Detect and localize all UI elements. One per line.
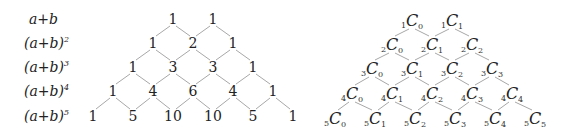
pascal-number: 4 — [229, 83, 238, 99]
edge-line — [216, 50, 230, 60]
combination-r: 2 — [478, 46, 483, 55]
combination-term: 4C1 — [381, 84, 403, 104]
combination-term: 5C1 — [364, 109, 386, 129]
exponent: 2 — [63, 35, 69, 44]
pascal-number: 1 — [249, 59, 258, 75]
combination-symbol: C — [529, 109, 541, 128]
pascal-number: 4 — [149, 83, 158, 99]
combination-r: 0 — [418, 22, 423, 31]
pascal-number: 10 — [204, 108, 222, 124]
combination-r: 3 — [498, 70, 503, 79]
combination-symbol: C — [409, 109, 421, 128]
combination-symbol: C — [366, 59, 378, 78]
combination-term: 5C0 — [324, 109, 346, 129]
combination-term: 4C0 — [341, 84, 363, 104]
combination-r: 1 — [398, 95, 403, 104]
combination-symbol: C — [489, 109, 501, 128]
combination-r: 0 — [341, 120, 346, 129]
combination-term: 3C2 — [441, 59, 463, 79]
combination-symbol: C — [369, 109, 381, 128]
pascal-number: 6 — [189, 83, 198, 99]
pascal-number: 10 — [164, 108, 182, 124]
pascal-number: 1 — [209, 11, 218, 27]
combination-r: 4 — [501, 120, 506, 129]
combination-triangle: 1C01C12C02C12C23C03C13C23C34C04C14C24C34… — [324, 11, 546, 129]
combination-r: 2 — [421, 120, 426, 129]
edge-line — [96, 98, 110, 109]
combination-r: 2 — [438, 95, 443, 104]
combination-symbol: C — [329, 109, 341, 128]
combination-symbol: C — [486, 59, 498, 78]
combination-symbol: C — [449, 109, 461, 128]
combination-r: 1 — [418, 70, 423, 79]
binomial-label: a+b — [29, 11, 58, 27]
pascal-number: 2 — [189, 35, 198, 51]
combination-symbol: C — [446, 11, 458, 30]
combination-term: 2C1 — [421, 35, 443, 55]
edge-line — [196, 26, 210, 36]
combination-term: 5C3 — [444, 109, 466, 129]
combination-r: 3 — [461, 120, 466, 129]
combination-r: 1 — [458, 22, 463, 31]
edge-line — [116, 74, 130, 84]
exponent: 4 — [63, 83, 69, 92]
combination-symbol: C — [506, 84, 518, 103]
combination-term: 3C3 — [481, 59, 503, 79]
combination-r: 4 — [518, 95, 523, 104]
pascal-number: 1 — [129, 59, 138, 75]
edge-line — [236, 74, 250, 84]
combination-symbol: C — [386, 35, 398, 54]
pascal-number: 3 — [169, 59, 178, 75]
pascal-numeric-triangle: 1112113311464115101051 — [89, 11, 298, 124]
binomial-labels: a+b(a+b)2(a+b)3(a+b)4(a+b)5 — [24, 11, 69, 124]
exponent: 3 — [64, 59, 69, 68]
combination-r: 3 — [478, 95, 483, 104]
combination-term: 1C0 — [401, 11, 423, 31]
combination-symbol: C — [346, 84, 358, 103]
combination-r: 0 — [358, 95, 363, 104]
combination-term: 3C1 — [401, 59, 423, 79]
pascal-triangle-diagram: a+b(a+b)2(a+b)3(a+b)4(a+b)5 111211331146… — [0, 0, 561, 133]
combination-r: 1 — [438, 46, 443, 55]
binomial-label: (a+b)4 — [24, 83, 69, 99]
pascal-number: 1 — [229, 35, 238, 51]
pascal-number: 1 — [149, 35, 158, 51]
combination-term: 2C0 — [381, 35, 403, 55]
combination-symbol: C — [386, 84, 398, 103]
combination-term: 4C2 — [421, 84, 443, 104]
pascal-number: 5 — [249, 108, 258, 124]
combination-term: 2C2 — [461, 35, 483, 55]
combination-r: 5 — [541, 120, 546, 129]
combination-r: 0 — [378, 70, 383, 79]
pascal-number: 3 — [209, 59, 218, 75]
combination-symbol: C — [466, 84, 478, 103]
binomial-label: (a+b)3 — [24, 59, 69, 75]
edge-line — [156, 74, 170, 84]
pascal-number: 1 — [269, 83, 278, 99]
combination-term: 3C0 — [361, 59, 383, 79]
combination-term: 1C1 — [441, 11, 463, 31]
pascal-number: 5 — [129, 108, 138, 124]
combination-r: 1 — [381, 120, 386, 129]
combination-term: 5C2 — [404, 109, 426, 129]
pascal-number: 1 — [89, 108, 98, 124]
edge-line — [156, 26, 170, 36]
edge-line — [136, 50, 150, 60]
pascal-number: 1 — [169, 11, 178, 27]
edge-line — [136, 98, 150, 109]
binomial-label: (a+b)5 — [24, 108, 69, 124]
combination-term: 4C4 — [501, 84, 523, 104]
combination-r: 2 — [458, 70, 463, 79]
edge-line — [256, 98, 270, 109]
combination-term: 4C3 — [461, 84, 483, 104]
combination-symbol: C — [426, 84, 438, 103]
combination-symbol: C — [406, 59, 418, 78]
combination-symbol: C — [426, 35, 438, 54]
edge-line — [176, 50, 190, 60]
pascal-number: 1 — [109, 83, 118, 99]
combination-symbol: C — [466, 35, 478, 54]
binomial-label: (a+b)2 — [24, 35, 69, 51]
edge-line — [196, 74, 210, 84]
combination-term: 5C4 — [484, 109, 506, 129]
combination-symbol: C — [406, 11, 418, 30]
